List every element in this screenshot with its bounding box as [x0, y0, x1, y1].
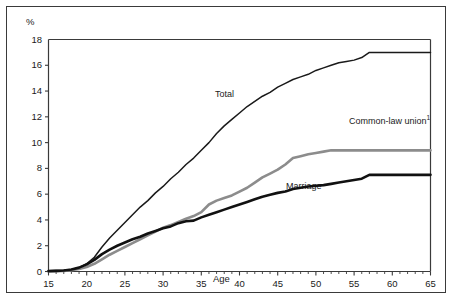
x-tick-label-20: 20: [72, 279, 102, 289]
y-tick-label-8: 8: [20, 163, 42, 173]
y-tick-label-12: 12: [20, 112, 42, 122]
y-tick-label-14: 14: [20, 86, 42, 96]
series-group: [49, 52, 431, 271]
plot-canvas: [0, 0, 454, 301]
y-tick-label-10: 10: [20, 138, 42, 148]
x-tick-label-15: 15: [34, 279, 64, 289]
series-line-total: [49, 52, 431, 270]
x-tick-label-55: 55: [339, 279, 369, 289]
x-tick-label-50: 50: [301, 279, 331, 289]
ticks-group: [45, 65, 431, 275]
y-tick-label-16: 16: [20, 60, 42, 70]
y-tick-label-0: 0: [20, 267, 42, 277]
x-tick-label-25: 25: [110, 279, 140, 289]
y-tick-label-6: 6: [20, 189, 42, 199]
x-tick-label-30: 30: [148, 279, 178, 289]
axes-group: [49, 40, 431, 272]
y-tick-label-4: 4: [20, 215, 42, 225]
chart-figure: % Age Total Common-law union1 Marriage 0…: [0, 0, 454, 301]
x-tick-label-60: 60: [377, 279, 407, 289]
x-tick-label-65: 65: [416, 279, 446, 289]
x-tick-label-40: 40: [225, 279, 255, 289]
y-tick-label-2: 2: [20, 241, 42, 251]
y-tick-label-18: 18: [20, 35, 42, 45]
x-tick-label-35: 35: [186, 279, 216, 289]
x-tick-label-45: 45: [263, 279, 293, 289]
